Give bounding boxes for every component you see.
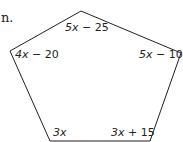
angle-label-bottom-right: 3x + 15 — [111, 127, 155, 138]
angle-label-bottom-left: 3x — [53, 127, 67, 138]
angle-label-left: 4x − 20 — [15, 49, 59, 60]
angle-label-right: 5x − 10 — [139, 49, 183, 60]
angle-label-top: 5x − 25 — [65, 22, 109, 33]
